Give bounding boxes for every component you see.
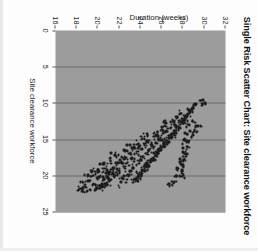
scatter-point — [168, 136, 170, 138]
scatter-point — [172, 181, 174, 183]
scatter-point — [157, 139, 159, 141]
scatter-point — [175, 180, 177, 182]
scatter-point — [99, 174, 101, 176]
scatter-point — [139, 157, 141, 159]
scatter-point — [83, 183, 85, 185]
scatter-point — [112, 166, 114, 168]
scatter-point — [185, 125, 187, 127]
scatter-point — [105, 174, 107, 176]
scatter-point — [178, 174, 180, 176]
scatter-point — [191, 120, 193, 122]
scatter-point — [194, 126, 196, 128]
scatter-point — [182, 138, 184, 140]
scatter-point — [146, 159, 148, 161]
scatter-point — [154, 150, 156, 152]
scatter-point — [131, 163, 133, 165]
scatter-point — [106, 162, 108, 164]
scatter-point — [127, 164, 129, 166]
scatter-point — [198, 99, 200, 101]
scatter-point — [186, 133, 188, 135]
scatter-point — [199, 124, 201, 126]
scatter-point — [102, 170, 104, 172]
scatter-point — [203, 101, 205, 103]
scatter-point — [135, 178, 137, 180]
scatter-point — [100, 182, 102, 184]
scanned-chart-page: Single Risk Scatter Chart: Site clearanc… — [0, 0, 258, 251]
scatter-point — [147, 165, 149, 167]
y-tick-label-16: 16 — [50, 2, 59, 24]
x-tick-label-25: 25 — [40, 202, 49, 220]
y-tick-label-20: 20 — [93, 2, 102, 24]
scatter-point — [131, 166, 133, 168]
scatter-chart-figure: Single Risk Scatter Chart: Site clearanc… — [0, 0, 258, 251]
scatter-point — [186, 123, 188, 125]
scatter-point — [140, 138, 142, 140]
y-tick-mark-32 — [224, 25, 225, 28]
scatter-point — [190, 135, 192, 137]
scatter-point — [189, 115, 191, 117]
scatter-point — [184, 122, 186, 124]
scatter-point — [135, 171, 137, 173]
scatter-point — [116, 169, 118, 171]
scatter-point — [146, 168, 148, 170]
scatter-point — [155, 155, 157, 157]
scatter-point — [181, 142, 183, 144]
scatter-point — [166, 183, 168, 185]
scatter-point — [89, 175, 91, 177]
scatter-point — [136, 150, 138, 152]
scatter-point — [175, 116, 177, 118]
scatter-point — [143, 168, 145, 170]
scatter-point — [102, 162, 104, 164]
scatter-point — [176, 168, 178, 170]
scatter-point — [110, 178, 112, 180]
scatter-point — [153, 138, 155, 140]
scatter-point — [109, 151, 111, 153]
scatter-point — [122, 165, 124, 167]
scatter-point — [137, 142, 139, 144]
x-tick-label-20: 20 — [40, 166, 49, 184]
scatter-point — [143, 137, 145, 139]
scatter-point — [182, 114, 184, 116]
scatter-point — [143, 164, 145, 166]
scatter-point — [117, 184, 119, 186]
scatter-point — [124, 149, 126, 151]
scatter-point — [89, 188, 91, 190]
scatter-point — [129, 153, 131, 155]
scatter-point — [125, 143, 127, 145]
scatter-point — [186, 119, 188, 121]
scatter-point — [77, 185, 79, 187]
y-tick-mark-20 — [97, 25, 98, 28]
scatter-point — [169, 127, 171, 129]
scatter-point — [152, 132, 154, 134]
scatter-point — [113, 154, 115, 156]
x-tick-mark-20 — [52, 175, 55, 176]
scatter-point — [140, 166, 142, 168]
scatter-point — [182, 173, 184, 175]
scatter-point — [128, 143, 130, 145]
scatter-point — [156, 130, 158, 132]
scatter-point — [101, 167, 103, 169]
scatter-point — [136, 147, 138, 149]
scatter-point — [146, 134, 148, 136]
scatter-point — [112, 175, 114, 177]
scatter-point — [130, 157, 132, 159]
scatter-point — [93, 183, 95, 185]
scatter-point — [139, 135, 141, 137]
scatter-point — [77, 188, 79, 190]
scatter-point — [126, 161, 128, 163]
scatter-point — [137, 153, 139, 155]
x-tick-mark-5 — [52, 66, 55, 67]
scatter-point — [165, 129, 167, 131]
scatter-point — [125, 178, 127, 180]
scatter-point — [130, 173, 132, 175]
scatter-point — [130, 170, 132, 172]
scatter-point — [146, 153, 148, 155]
scatter-point — [133, 157, 135, 159]
scatter-point — [163, 119, 165, 121]
scatter-point — [150, 160, 152, 162]
y-tick-mark-28 — [182, 25, 183, 28]
scatter-point — [84, 180, 86, 182]
scatter-point — [103, 186, 105, 188]
scatter-point — [81, 180, 83, 182]
scatter-point — [177, 121, 179, 123]
